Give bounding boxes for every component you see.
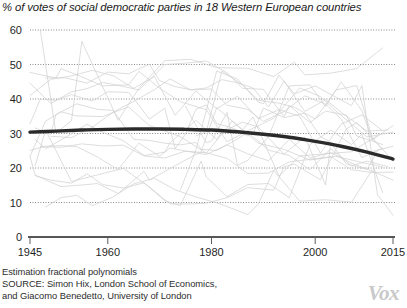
axes-group <box>28 237 395 244</box>
x-axis-tick-labels: 19451960198020002015 <box>18 246 405 258</box>
vox-logo: Vox <box>368 283 399 304</box>
x-axis-tick-label: 1945 <box>18 246 42 258</box>
country-line <box>35 122 382 203</box>
x-axis-tick-label: 2000 <box>303 246 327 258</box>
x-axis-tick-label: 1960 <box>96 246 120 258</box>
line-chart-plot: 0102030405060 19451960198020002015 <box>0 0 407 265</box>
y-axis-tick-label: 60 <box>10 24 22 36</box>
x-axis-tick-label: 1980 <box>199 246 223 258</box>
country-line <box>46 170 373 215</box>
footer-notes: Estimation fractional polynomials SOURCE… <box>2 266 332 302</box>
y-axis-tick-label: 40 <box>10 93 22 105</box>
y-axis-tick-label: 0 <box>16 231 22 243</box>
y-axis-tick-labels: 0102030405060 <box>10 24 22 243</box>
source-line-1: SOURCE: Simon Hix, London School of Econ… <box>2 278 332 290</box>
estimation-note: Estimation fractional polynomials <box>2 266 332 278</box>
country-series-group <box>30 30 393 215</box>
x-axis-tick-label: 2015 <box>381 246 405 258</box>
source-line-2: and Giacomo Benedetto, University of Lon… <box>2 290 332 302</box>
y-axis-tick-label: 50 <box>10 59 22 71</box>
y-axis-tick-label: 30 <box>10 128 22 140</box>
chart-figure: % of votes of social democratic parties … <box>0 0 407 308</box>
y-axis-tick-label: 20 <box>10 162 22 174</box>
country-line <box>40 144 393 174</box>
y-axis-tick-label: 10 <box>10 197 22 209</box>
